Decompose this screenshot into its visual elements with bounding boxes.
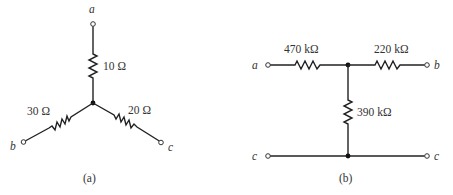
terminal-b-a <box>266 63 271 68</box>
terminal-c-label: c <box>168 141 173 153</box>
resistor-390-kohm-label: 390 kΩ <box>357 106 391 118</box>
terminal-b-b <box>425 63 430 68</box>
resistor-10-ohm <box>89 27 97 104</box>
figure-b-caption: (b) <box>339 172 353 185</box>
terminal-b-c-right-label: c <box>434 150 439 162</box>
resistor-470-kohm-label: 470 kΩ <box>284 43 318 55</box>
terminal-c <box>159 140 164 145</box>
resistor-470-kohm <box>270 61 348 69</box>
resistor-20-ohm-label: 20 Ω <box>128 104 151 116</box>
figure-a-caption: (a) <box>83 172 96 185</box>
resistor-220-kohm <box>348 61 425 69</box>
resistor-220-kohm-label: 220 kΩ <box>374 43 408 55</box>
bottom-node <box>346 154 351 159</box>
terminal-b-c-right <box>425 154 430 159</box>
terminal-b <box>21 140 26 145</box>
terminal-b-c-left <box>266 154 271 159</box>
resistor-10-ohm-label: 10 Ω <box>103 60 126 72</box>
terminal-b-b-label: b <box>434 59 440 71</box>
figure-a-wye-network: a 10 Ω 30 Ω b 20 Ω c (a) <box>10 3 173 185</box>
figure-b-t-network: a 470 kΩ 220 kΩ b 390 kΩ c c (b) <box>252 43 440 185</box>
resistor-30-ohm-label: 30 Ω <box>27 105 50 117</box>
terminal-b-a-label: a <box>252 59 258 71</box>
terminal-b-label: b <box>10 140 16 152</box>
terminal-a <box>91 22 96 27</box>
resistor-390-kohm <box>344 65 352 156</box>
terminal-a-label: a <box>89 3 95 15</box>
terminal-b-c-left-label: c <box>252 150 257 162</box>
